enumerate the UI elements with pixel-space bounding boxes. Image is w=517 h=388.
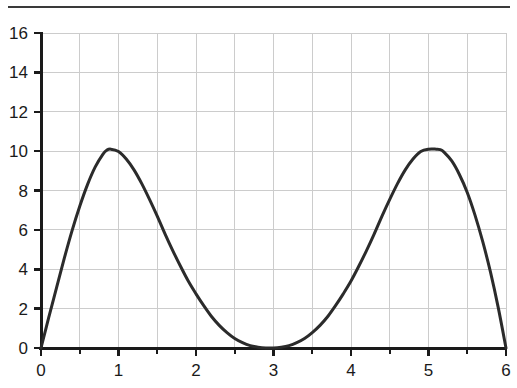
plot-canvas xyxy=(0,0,517,388)
x-tick-label: 4 xyxy=(346,362,355,379)
y-tick-label: 6 xyxy=(0,221,28,238)
y-tick-label: 14 xyxy=(0,64,28,81)
tick-marks-group xyxy=(34,33,506,356)
y-tick-label: 2 xyxy=(0,300,28,317)
y-tick-label: 4 xyxy=(0,261,28,278)
y-tick-label: 0 xyxy=(0,340,28,357)
chart-figure: 0246810121416 0123456 xyxy=(0,0,517,388)
x-tick-label: 0 xyxy=(36,362,45,379)
x-tick-label: 5 xyxy=(424,362,433,379)
x-tick-label: 6 xyxy=(501,362,510,379)
gridlines-group xyxy=(41,33,506,348)
y-tick-label: 16 xyxy=(0,25,28,42)
y-tick-label: 10 xyxy=(0,143,28,160)
x-tick-label: 1 xyxy=(114,362,123,379)
x-tick-label: 3 xyxy=(269,362,278,379)
y-tick-label: 12 xyxy=(0,103,28,120)
x-tick-label: 2 xyxy=(191,362,200,379)
y-tick-label: 8 xyxy=(0,182,28,199)
